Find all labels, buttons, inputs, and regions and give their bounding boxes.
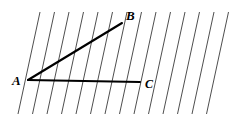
hatch-line	[149, 12, 171, 114]
hatch-line	[33, 12, 55, 114]
hatch-line	[120, 12, 142, 114]
hatch-line	[76, 12, 98, 114]
vertex-label-c: C	[145, 77, 154, 91]
segment-group	[28, 23, 140, 82]
hatch-line	[62, 12, 84, 114]
segment-ab	[28, 23, 122, 80]
hatch-line	[178, 12, 200, 114]
hatch-line	[207, 12, 229, 114]
geometry-figure: A B C	[0, 0, 244, 128]
vertex-label-b: B	[125, 8, 135, 23]
vertex-label-a: A	[11, 73, 21, 88]
segment-ac	[28, 80, 140, 82]
hatch-line	[18, 12, 40, 114]
figure-canvas: A B C	[0, 0, 244, 128]
hatch-line	[134, 12, 156, 114]
hatch-line	[91, 12, 113, 114]
hatch-line	[163, 12, 185, 114]
hatch-line	[192, 12, 214, 114]
hatch-line-group	[18, 12, 229, 114]
